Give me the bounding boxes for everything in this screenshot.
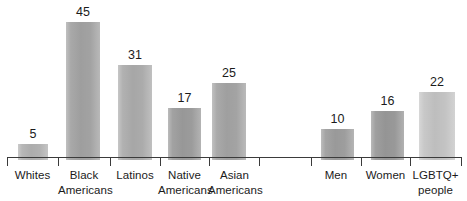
- bar-value-label: 25: [212, 66, 246, 80]
- category-label-line1: Asian: [208, 168, 261, 183]
- axis-tick: [361, 157, 362, 166]
- category-label-line2: Americans: [158, 183, 211, 198]
- category-label-men: Men: [311, 168, 361, 183]
- category-label-latinos: Latinos: [110, 168, 160, 183]
- category-label-line1: Latinos: [110, 168, 160, 183]
- bar-group-lgbtq-people[interactable]: 22: [419, 3, 455, 160]
- category-label-line2: Americans: [208, 183, 261, 198]
- bar-value-label: 17: [168, 91, 201, 105]
- axis-tick: [410, 157, 411, 166]
- bar-native-americans[interactable]: [168, 108, 201, 160]
- category-label-asian-americans: Asian Americans: [208, 168, 261, 197]
- category-label-line2: people: [410, 183, 461, 198]
- axis-tick: [58, 157, 59, 166]
- bar-men[interactable]: [321, 129, 354, 160]
- axis-tick: [7, 157, 8, 166]
- category-label-line1: LGBTQ+: [410, 168, 461, 183]
- plot-area: 5 45 31 17 25 10 16 22: [0, 0, 467, 160]
- bar-value-label: 16: [371, 94, 404, 108]
- bar-value-label: 31: [118, 48, 152, 62]
- category-label-line2: Americans: [58, 183, 110, 198]
- category-label-line1: Women: [361, 168, 410, 183]
- bar-group-black-americans[interactable]: 45: [66, 3, 100, 160]
- category-label-line1: Black: [58, 168, 110, 183]
- bar-group-asian-americans[interactable]: 25: [212, 3, 246, 160]
- bar-value-label: 10: [321, 112, 354, 126]
- category-label-lgbtq-people: LGBTQ+ people: [410, 168, 461, 197]
- axis-tick: [160, 157, 161, 166]
- bar-value-label: 45: [66, 5, 100, 19]
- category-label-whites: Whites: [7, 168, 58, 183]
- bar-black-americans[interactable]: [66, 22, 100, 160]
- bar-asian-americans[interactable]: [212, 83, 246, 160]
- bar-group-latinos[interactable]: 31: [118, 3, 152, 160]
- category-label-line1: Men: [311, 168, 361, 183]
- bar-chart: 5 45 31 17 25 10 16 22: [0, 0, 467, 201]
- category-label-native-americans: Native Americans: [158, 168, 211, 197]
- category-label-line1: Native: [158, 168, 211, 183]
- bar-value-label: 5: [18, 127, 48, 141]
- category-label-black-americans: Black Americans: [58, 168, 110, 197]
- bar-group-whites[interactable]: 5: [18, 3, 48, 160]
- category-labels: Whites Black Americans Latinos Native Am…: [0, 168, 467, 201]
- category-label-line1: Whites: [7, 168, 58, 183]
- bar-latinos[interactable]: [118, 65, 152, 160]
- axis-tick: [311, 157, 312, 166]
- axis-tick: [259, 157, 260, 166]
- bar-group-men[interactable]: 10: [321, 3, 354, 160]
- bar-group-women[interactable]: 16: [371, 3, 404, 160]
- bar-value-label: 22: [419, 75, 455, 89]
- bar-group-native-americans[interactable]: 17: [168, 3, 201, 160]
- axis-tick: [110, 157, 111, 166]
- axis-baseline: [7, 157, 462, 158]
- category-label-women: Women: [361, 168, 410, 183]
- axis-tick: [209, 157, 210, 166]
- axis-tick: [461, 157, 462, 166]
- bar-lgbtq-people[interactable]: [419, 92, 455, 160]
- bar-women[interactable]: [371, 111, 404, 160]
